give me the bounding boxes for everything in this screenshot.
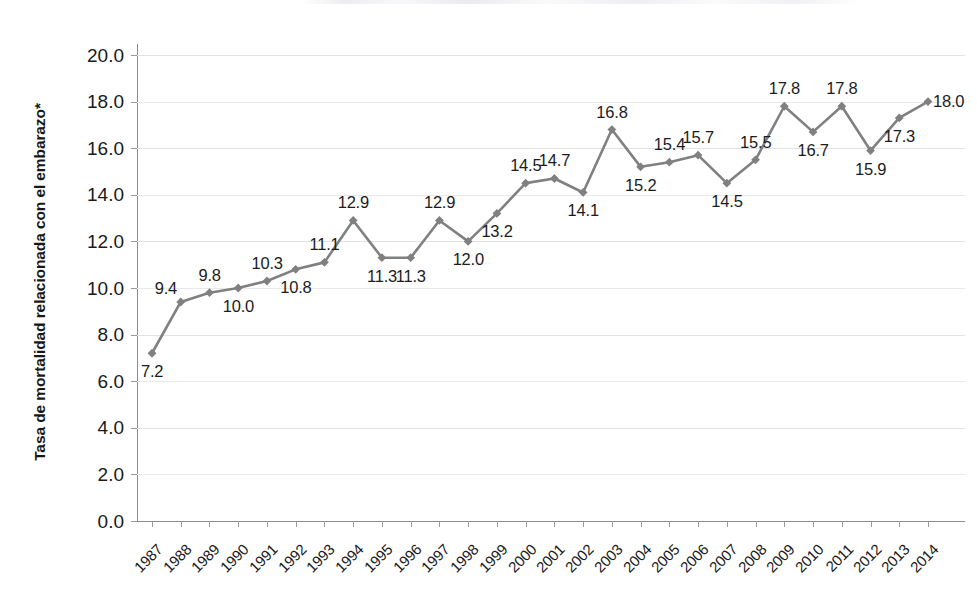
x-axis-tick-mark	[641, 521, 642, 527]
x-axis-tick-mark	[267, 521, 268, 527]
x-axis-tick-mark	[813, 521, 814, 527]
data-point-marker	[579, 188, 588, 197]
data-point-label: 15.2	[625, 176, 656, 195]
x-axis-tick-mark	[468, 521, 469, 527]
data-point-marker	[263, 277, 272, 286]
data-point-label: 17.8	[826, 79, 857, 98]
x-axis-tick-mark	[612, 521, 613, 527]
data-point-label: 11.3	[396, 267, 426, 286]
x-axis-tick-mark	[554, 521, 555, 527]
x-axis-tick-mark	[727, 521, 728, 527]
series-polyline	[152, 102, 928, 354]
series-markers	[148, 97, 933, 357]
data-point-label: 10.8	[280, 278, 311, 297]
y-axis-tick-mark	[131, 521, 137, 522]
data-point-label: 9.8	[198, 266, 220, 285]
data-point-marker	[665, 158, 674, 167]
data-point-label: 17.8	[769, 79, 800, 98]
data-point-label: 9.4	[155, 279, 177, 298]
x-axis-tick-mark	[583, 521, 584, 527]
data-point-label: 12.9	[338, 193, 369, 212]
data-point-marker	[234, 284, 243, 293]
x-axis-tick-mark	[152, 521, 153, 527]
y-axis-tick-mark	[131, 428, 137, 429]
data-point-label: 10.0	[223, 297, 254, 316]
data-point-label: 14.7	[539, 151, 570, 170]
data-point-marker	[205, 288, 214, 297]
data-point-label: 12.0	[453, 250, 484, 269]
y-axis-tick-mark	[131, 288, 137, 289]
x-axis-tick-mark	[899, 521, 900, 527]
pregnancy-mortality-rate-line-chart: Tasa de mortalidad relacionada con el em…	[0, 0, 977, 600]
x-axis-tick-mark	[181, 521, 182, 527]
y-axis-tick-mark	[131, 381, 137, 382]
x-axis-tick-mark	[382, 521, 383, 527]
data-point-label: 11.1	[309, 235, 339, 254]
y-axis-tick-mark	[131, 241, 137, 242]
x-axis-tick-mark	[756, 521, 757, 527]
data-point-label: 15.9	[855, 160, 886, 179]
data-point-label: 13.2	[481, 222, 512, 241]
x-axis-tick-mark	[784, 521, 785, 527]
data-point-label: 14.5	[510, 156, 541, 175]
y-axis-tick-mark	[131, 474, 137, 475]
y-axis-tick-mark	[131, 102, 137, 103]
data-point-label: 15.7	[683, 128, 714, 147]
x-axis-tick-mark	[698, 521, 699, 527]
data-point-label: 14.1	[568, 201, 599, 220]
x-axis-tick-mark	[842, 521, 843, 527]
x-axis-tick-mark	[411, 521, 412, 527]
x-axis-tick-mark	[871, 521, 872, 527]
y-axis-tick-mark	[131, 195, 137, 196]
data-point-label: 10.3	[251, 254, 282, 273]
x-axis-tick-mark	[324, 521, 325, 527]
data-point-label: 15.5	[740, 133, 771, 152]
x-axis-tick-mark	[497, 521, 498, 527]
x-axis-tick-mark	[669, 521, 670, 527]
x-axis-tick-mark	[928, 521, 929, 527]
data-point-label: 14.5	[711, 192, 742, 211]
y-axis-tick-mark	[131, 55, 137, 56]
data-point-label: 17.3	[884, 127, 915, 146]
data-point-label: 15.4	[654, 135, 685, 154]
data-point-label: 16.8	[596, 103, 627, 122]
y-axis-tick-mark	[131, 148, 137, 149]
y-axis-tick-mark	[131, 335, 137, 336]
x-axis-tick-mark	[296, 521, 297, 527]
x-axis-tick-mark	[353, 521, 354, 527]
data-point-label: 18.0	[933, 92, 964, 111]
data-point-label: 11.3	[367, 267, 397, 286]
data-point-marker	[550, 174, 559, 183]
x-axis-tick-mark	[439, 521, 440, 527]
data-point-marker	[291, 265, 300, 274]
x-axis-tick-mark	[526, 521, 527, 527]
data-point-label: 7.2	[141, 362, 163, 381]
x-axis-tick-mark	[238, 521, 239, 527]
data-point-label: 16.7	[798, 141, 829, 160]
data-point-label: 12.9	[424, 193, 455, 212]
x-axis-tick-mark	[209, 521, 210, 527]
